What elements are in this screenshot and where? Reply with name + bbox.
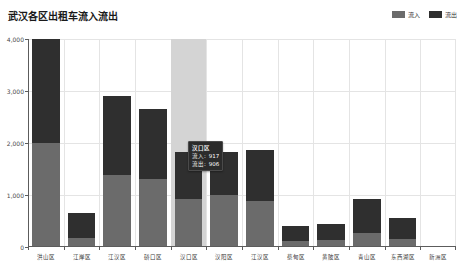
x-axis-tickmark — [278, 247, 279, 250]
y-axis-tick-label: 3,000 — [0, 88, 24, 95]
legend-item-inflow[interactable]: 流入 — [392, 11, 420, 18]
x-axis-labels: 洪山区江岸区江汉区硚口区汉口区汉阳区江汉区蔡甸区黄陂区青山区东西湖区新洲区 — [28, 250, 456, 264]
bar-slot[interactable] — [64, 39, 100, 247]
tooltip-row-in: 流入: 917 — [192, 152, 219, 160]
bar-slot[interactable] — [242, 39, 278, 247]
plot-area — [28, 39, 456, 247]
legend-label: 流出 — [445, 11, 457, 18]
x-axis-tick-label: 江汉区 — [108, 253, 126, 261]
y-axis-tick-label: 0 — [0, 244, 24, 251]
bar-segment-inflow[interactable] — [175, 199, 203, 247]
bar-slot[interactable] — [99, 39, 135, 247]
x-axis-tick-label: 江岸区 — [73, 253, 91, 261]
stacked-bar[interactable] — [389, 218, 417, 247]
x-axis-tick-label: 硚口区 — [144, 253, 162, 261]
bar-series-group — [28, 39, 456, 247]
bar-segment-outflow[interactable] — [139, 109, 167, 179]
x-axis-tick-label: 东西湖区 — [391, 253, 415, 261]
bar-slot[interactable] — [278, 39, 314, 247]
tooltip-row-out: 流出: 906 — [192, 160, 219, 168]
tooltip-label-in: 流入: — [192, 152, 206, 160]
x-axis-tickmark — [64, 247, 65, 250]
bar-slot[interactable] — [135, 39, 171, 247]
bar-segment-inflow[interactable] — [246, 201, 274, 247]
bar-segment-inflow[interactable] — [353, 233, 381, 247]
bar-segment-outflow[interactable] — [246, 150, 274, 201]
bar-segment-outflow[interactable] — [353, 199, 381, 234]
bar-slot[interactable] — [349, 39, 385, 247]
bar-segment-outflow[interactable] — [32, 39, 60, 143]
stacked-bar[interactable] — [32, 39, 60, 247]
y-axis-tickmark — [25, 39, 29, 40]
chart-title: 武汉各区出租车流入流出 — [8, 8, 118, 23]
bar-segment-inflow[interactable] — [139, 179, 167, 247]
x-axis-tick-label: 江汉区 — [251, 253, 269, 261]
x-axis-tick-label: 青山区 — [358, 253, 376, 261]
bar-slot[interactable] — [28, 39, 64, 247]
legend-swatch-icon — [429, 11, 442, 18]
y-axis-tick-label: 2,000 — [0, 140, 24, 147]
y-axis-tickmark — [25, 195, 29, 196]
x-axis-tickmark — [206, 247, 207, 250]
bar-segment-outflow[interactable] — [317, 224, 345, 241]
stacked-bar[interactable] — [246, 150, 274, 247]
x-axis-tickmark — [313, 247, 314, 250]
chart-container: 武汉各区出租车流入流出 流入流出 01,0002,0003,0004,000 洪… — [0, 0, 465, 278]
legend-label: 流入 — [408, 11, 420, 18]
x-axis-tickmark — [385, 247, 386, 250]
y-axis-tickmark — [25, 143, 29, 144]
x-axis-tick-label: 汉口区 — [180, 253, 198, 261]
bar-segment-outflow[interactable] — [282, 226, 310, 241]
legend-item-outflow[interactable]: 流出 — [429, 11, 457, 18]
bar-slot[interactable] — [313, 39, 349, 247]
x-axis-tick-label: 洪山区 — [37, 253, 55, 261]
bar-segment-outflow[interactable] — [389, 218, 417, 238]
x-axis-tickmark — [242, 247, 243, 250]
bar-segment-inflow[interactable] — [210, 195, 238, 247]
x-axis-tickmark — [455, 247, 456, 250]
tooltip-label-out: 流出: — [192, 160, 206, 168]
x-axis-tickmark — [420, 247, 421, 250]
tooltip-value-in: 917 — [209, 152, 220, 160]
stacked-bar[interactable] — [282, 226, 310, 247]
legend-swatch-icon — [392, 11, 405, 18]
bar-segment-inflow[interactable] — [103, 175, 131, 247]
stacked-bar[interactable] — [317, 224, 345, 247]
chart-legend: 流入流出 — [392, 11, 457, 18]
stacked-bar[interactable] — [353, 199, 381, 247]
x-axis-tick-label: 新洲区 — [429, 253, 447, 261]
bar-segment-inflow[interactable] — [32, 143, 60, 247]
stacked-bar[interactable] — [139, 109, 167, 247]
x-axis-tickmark — [171, 247, 172, 250]
bar-slot[interactable] — [420, 39, 456, 247]
stacked-bar[interactable] — [68, 213, 96, 247]
bar-slot[interactable] — [385, 39, 421, 247]
y-axis-tick-label: 1,000 — [0, 192, 24, 199]
bar-segment-outflow[interactable] — [68, 213, 96, 237]
y-axis-tick-label: 4,000 — [0, 36, 24, 43]
x-axis-tickmark — [349, 247, 350, 250]
bar-segment-outflow[interactable] — [103, 96, 131, 175]
x-axis-tick-label: 蔡甸区 — [287, 253, 305, 261]
tooltip-value-out: 906 — [209, 160, 220, 168]
x-axis-tickmark — [28, 247, 29, 250]
chart-tooltip: 汉口区 流入: 917 流出: 906 — [188, 141, 223, 171]
stacked-bar[interactable] — [103, 96, 131, 247]
x-axis-tick-label: 汉阳区 — [215, 253, 233, 261]
tooltip-title: 汉口区 — [192, 144, 219, 152]
x-axis-tickmark — [99, 247, 100, 250]
x-axis-tick-label: 黄陂区 — [322, 253, 340, 261]
x-axis-tickmark — [135, 247, 136, 250]
y-axis-tickmark — [25, 91, 29, 92]
